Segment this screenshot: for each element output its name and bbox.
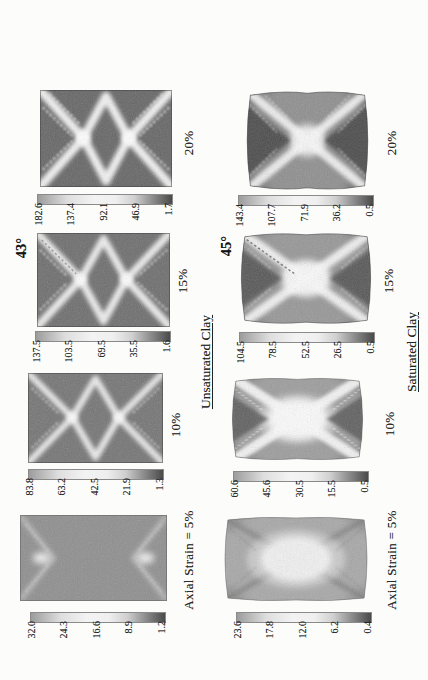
heatmap-panel-saturated-20 (244, 88, 371, 193)
colorbar-ticks-saturated-15: 104.5 78.5 52.5 26.5 0.5 (239, 352, 373, 364)
colorbar-ticks-unsaturated-20: 182.6 137.4 92.1 46.9 1.7 (37, 214, 171, 226)
tick-label: 103.5 (63, 340, 75, 374)
strain-label-unsaturated-10: 10% (168, 413, 184, 438)
tick-label: 63.2 (56, 478, 68, 512)
tick-label: 1.7 (163, 203, 175, 237)
heatmap-panel-unsaturated-10 (28, 373, 163, 463)
tick-label: 1.6 (161, 340, 173, 374)
colorbar-ticks-saturated-5: 23.6 17.8 12.0 6.2 0.4 (236, 632, 370, 644)
tick-label: 78.5 (267, 341, 279, 375)
heatmap-panel-unsaturated-20 (40, 90, 172, 187)
angle-label-45: 45° (218, 236, 235, 256)
tick-label: 24.3 (58, 621, 70, 655)
tick-label: 137.5 (31, 340, 43, 374)
heatmap-panel-unsaturated-5 (20, 515, 167, 601)
tick-label: 8.9 (123, 621, 135, 655)
colorbar-ticks-saturated-10: 60.6 45.6 30.5 15.5 0.5 (233, 491, 367, 503)
tick-label: 52.5 (300, 341, 312, 375)
tick-label: 35.5 (128, 340, 140, 374)
tick-label: 23.6 (232, 621, 244, 655)
strain-label-unsaturated-15: 15% (175, 269, 191, 294)
tick-label: 60.6 (229, 480, 241, 514)
colorbar-ticks-unsaturated-10: 83.8 63.2 42.5 21.9 1.3 (28, 489, 162, 501)
group-title-saturated: Saturated Clay (404, 312, 420, 392)
tick-label: 69.5 (96, 340, 108, 374)
strain-label-unsaturated-20: 20% (181, 131, 197, 156)
tick-label: 104.5 (235, 341, 247, 375)
tick-label: 26.5 (332, 341, 344, 375)
figure-canvas: 182.6 137.4 92.1 46.9 1.7 20% 43° (0, 0, 428, 680)
tick-label: 30.5 (294, 480, 306, 514)
tick-label: 32.0 (26, 621, 38, 655)
tick-label: 0.5 (359, 480, 371, 514)
group-title-unsaturated: Unsaturated Clay (198, 315, 214, 409)
colorbar-ticks-unsaturated-15: 137.5 103.5 69.5 35.5 1.6 (35, 351, 169, 363)
tick-label: 182.6 (33, 203, 45, 237)
tick-label: 137.4 (65, 203, 77, 237)
strain-label-saturated-5: Axial Strain = 5% (384, 510, 400, 609)
tick-label: 1.2 (156, 621, 168, 655)
strain-label-unsaturated-5: Axial Strain = 5% (181, 510, 197, 609)
colorbar-ticks-saturated-20: 143.4 107.7 71.9 36.2 0.5 (238, 215, 372, 227)
strain-label-saturated-20: 20% (384, 131, 400, 156)
tick-label: 42.5 (89, 478, 101, 512)
tick-label: 83.8 (24, 478, 36, 512)
heatmap-panel-saturated-10 (229, 375, 366, 463)
strain-label-saturated-10: 10% (382, 412, 398, 437)
heatmap-panel-saturated-5 (222, 515, 370, 603)
tick-label: 16.6 (91, 621, 103, 655)
tick-label: 15.5 (326, 480, 338, 514)
tick-label: 0.5 (365, 341, 377, 375)
tick-label: 1.3 (154, 478, 166, 512)
tick-label: 0.4 (362, 621, 374, 655)
tick-label: 12.0 (297, 621, 309, 655)
colorbar-ticks-unsaturated-5: 32.0 24.3 16.6 8.9 1.2 (30, 632, 164, 644)
tick-label: 21.9 (121, 478, 133, 512)
heatmap-panel-unsaturated-15 (37, 233, 170, 327)
strain-label-saturated-15: 15% (381, 269, 397, 294)
tick-label: 46.9 (130, 203, 142, 237)
tick-label: 45.6 (261, 480, 273, 514)
tick-label: 17.8 (264, 621, 276, 655)
tick-label: 6.2 (329, 621, 341, 655)
heatmap-panel-saturated-15 (238, 230, 374, 327)
tick-label: 92.1 (98, 203, 110, 237)
angle-label-43: 43° (13, 238, 30, 258)
